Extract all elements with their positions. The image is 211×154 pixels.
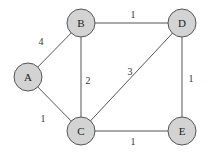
edges [28, 23, 182, 131]
weight-b-d: 1 [131, 9, 136, 20]
node-b: B [67, 9, 95, 37]
node-b-label: B [77, 17, 84, 29]
node-c-label: C [77, 125, 84, 137]
weight-c-d: 3 [128, 66, 133, 77]
graph-diagram: 4 1 1 2 3 1 1 A B C D E [0, 0, 211, 154]
node-d-label: D [178, 17, 186, 29]
node-a: A [14, 63, 42, 91]
nodes: A B C D E [14, 9, 196, 145]
weight-b-c: 2 [86, 75, 91, 86]
weight-d-e: 1 [189, 73, 194, 84]
weight-a-c: 1 [41, 113, 46, 124]
node-e-label: E [179, 125, 186, 137]
node-e: E [168, 117, 196, 145]
node-a-label: A [24, 71, 32, 83]
weight-a-b: 4 [39, 36, 44, 47]
node-d: D [168, 9, 196, 37]
edge-c-d [81, 23, 182, 131]
weight-c-e: 1 [131, 136, 136, 147]
node-c: C [67, 117, 95, 145]
